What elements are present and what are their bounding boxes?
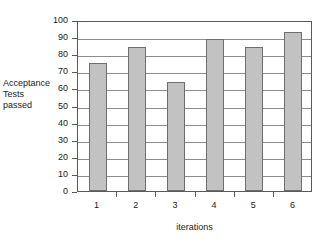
y-axis-tick-label: 60 xyxy=(28,84,68,93)
x-axis-tick-label: 2 xyxy=(116,200,156,210)
y-axis-tick-mark xyxy=(72,55,77,56)
y-axis-tick-mark xyxy=(72,192,77,193)
x-axis-title: iterations xyxy=(77,222,312,232)
x-axis-tick-mark xyxy=(195,192,196,197)
y-axis-tick-mark xyxy=(72,124,77,125)
gridline xyxy=(78,39,311,40)
y-axis-tick-mark xyxy=(72,38,77,39)
y-axis-tick-mark xyxy=(72,141,77,142)
plot-area xyxy=(77,21,312,192)
y-axis-tick-mark xyxy=(72,107,77,108)
y-axis-tick-mark xyxy=(72,72,77,73)
bar xyxy=(128,47,146,191)
y-axis-tick-label: 100 xyxy=(28,16,68,25)
bar xyxy=(206,39,224,191)
gridline xyxy=(78,56,311,57)
bar xyxy=(245,47,263,191)
gridline xyxy=(78,108,311,109)
y-axis-tick-mark xyxy=(72,158,77,159)
x-axis-tick-mark xyxy=(273,192,274,197)
gridline xyxy=(78,73,311,74)
x-axis-tick-mark xyxy=(155,192,156,197)
x-axis-tick-mark xyxy=(234,192,235,197)
x-axis-tick-label: 3 xyxy=(155,200,195,210)
y-axis-tick-label: 80 xyxy=(28,50,68,59)
gridline xyxy=(78,159,311,160)
x-axis-tick-label: 4 xyxy=(194,200,234,210)
gridline xyxy=(78,176,311,177)
y-axis-tick-label: 0 xyxy=(28,187,68,196)
chart-page: { "chart_data": { "type": "bar", "title"… xyxy=(0,0,331,241)
y-axis-tick-label: 10 xyxy=(28,170,68,179)
y-axis-tick-label: 40 xyxy=(28,119,68,128)
y-axis-tick-label: 30 xyxy=(28,136,68,145)
bar xyxy=(89,63,107,191)
y-axis-tick-label: 90 xyxy=(28,33,68,42)
y-axis-tick-mark xyxy=(72,89,77,90)
gridline xyxy=(78,125,311,126)
y-axis-tick-mark xyxy=(72,175,77,176)
y-axis-tick-mark xyxy=(72,21,77,22)
bar xyxy=(167,82,185,191)
y-axis-tick-label: 50 xyxy=(28,102,68,111)
y-axis-tick-label: 70 xyxy=(28,67,68,76)
x-axis-tick-label: 1 xyxy=(77,200,117,210)
bar xyxy=(284,32,302,191)
x-axis-tick-label: 5 xyxy=(233,200,273,210)
x-axis-tick-mark xyxy=(116,192,117,197)
y-axis-tick-label: 20 xyxy=(28,153,68,162)
gridline xyxy=(78,142,311,143)
x-axis-tick-label: 6 xyxy=(272,200,312,210)
gridline xyxy=(78,90,311,91)
